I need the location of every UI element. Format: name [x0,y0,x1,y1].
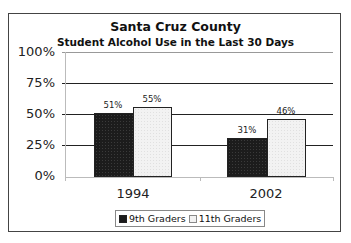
ytick-75: 75% [26,76,55,90]
x-tick [65,177,66,181]
x-tick [333,177,334,181]
legend-item-9th: 9th Graders [119,213,186,224]
bar-9th-2002 [227,138,268,177]
y-axis [65,52,66,177]
legend-label-9th: 9th Graders [129,213,186,224]
data-label-9th-2002: 31% [227,125,267,135]
legend-swatch-dark-icon [119,215,127,223]
xlabel-1994: 1994 [93,186,173,201]
gridline-100 [62,52,333,53]
bar-11th-1994 [133,107,172,177]
legend-item-11th: 11th Graders [189,213,262,224]
chart-title: Santa Cruz County [0,19,351,34]
legend-label-11th: 11th Graders [199,213,262,224]
ytick-100: 100% [18,45,55,59]
ytick-25: 25% [26,138,55,152]
data-label-9th-1994: 51% [93,100,133,110]
x-tick [200,177,201,181]
ytick-50: 50% [26,107,55,121]
x-axis [65,177,333,178]
legend: 9th Graders 11th Graders [115,210,265,227]
data-label-11th-1994: 55% [132,94,172,104]
data-label-11th-2002: 46% [266,106,306,116]
bar-11th-2002 [267,119,306,177]
gridline-75 [62,83,333,84]
ytick-0: 0% [34,169,55,183]
xlabel-2002: 2002 [226,186,306,201]
bar-9th-1994 [94,113,134,177]
legend-swatch-light-icon [189,215,197,223]
